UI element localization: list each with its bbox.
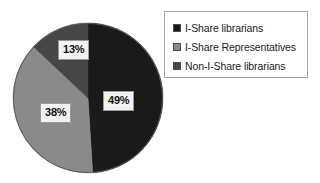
pie-chart-figure: 49% 38% 13% I-Share librarians I-Share R…: [0, 0, 320, 183]
legend-item-non-i-share-librarians: Non-I-Share librarians: [173, 56, 307, 75]
pie-data-label-i-share-librarians: 49%: [103, 91, 134, 111]
legend-item-i-share-representatives: I-Share Representatives: [173, 37, 307, 56]
pie-data-label-non-i-share-librarians: 13%: [58, 40, 89, 60]
chart-legend: I-Share librarians I-Share Representativ…: [164, 11, 308, 78]
legend-swatch-icon: [173, 43, 181, 51]
pie-data-label-i-share-representatives: 38%: [40, 103, 71, 123]
legend-item-i-share-librarians: I-Share librarians: [173, 18, 307, 37]
legend-item-label: I-Share librarians: [185, 22, 263, 34]
legend-swatch-icon: [173, 62, 181, 70]
legend-item-label: I-Share Representatives: [185, 41, 296, 53]
legend-item-label: Non-I-Share librarians: [185, 60, 286, 72]
legend-swatch-icon: [173, 24, 181, 32]
